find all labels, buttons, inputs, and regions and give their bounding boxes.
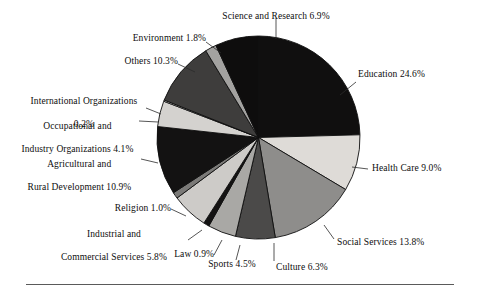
label-science-and-research: Science and Research 6.9% [160, 11, 392, 23]
label-sports: Sports 4.5% [180, 259, 284, 271]
label-industrial-and-commercial-services: Industrial and Commercial Services 5.8% [30, 217, 188, 275]
label-social-services: Social Services 13.8% [337, 237, 477, 249]
leader-line-sports [236, 245, 240, 260]
bottom-divider [26, 284, 454, 285]
pie-slice-education [259, 36, 360, 138]
pie-chart-figure: Science and Research 6.9% Environment 1.… [0, 0, 479, 297]
pie-slices-group [157, 36, 360, 239]
label-agricultural-and-rural-development: Agricultural and Rural Development 10.9% [8, 147, 141, 205]
label-industrial-line1: Industrial and [87, 229, 141, 239]
leader-line-religion [171, 209, 186, 216]
leader-line-international-organizations [146, 108, 161, 114]
label-culture: Culture 6.3% [276, 262, 388, 274]
label-religion: Religion 1.0% [48, 203, 171, 215]
leader-line-agricultural [141, 159, 158, 163]
label-others: Others 10.3% [30, 56, 178, 68]
label-agricultural-line1: Agricultural and [47, 159, 111, 169]
leader-line-law [214, 240, 222, 255]
label-health-care: Health Care 9.0% [372, 163, 478, 175]
label-education: Education 24.6% [358, 69, 476, 81]
leader-line-social-services [324, 225, 334, 239]
label-agricultural-line2: Rural Development 10.9% [28, 182, 132, 192]
leader-line-industrial [188, 230, 202, 240]
label-international-organizations-line1: International Organizations [31, 96, 138, 106]
label-environment: Environment 1.8% [40, 33, 206, 45]
label-occupational-line1: Occupational and [43, 121, 111, 131]
